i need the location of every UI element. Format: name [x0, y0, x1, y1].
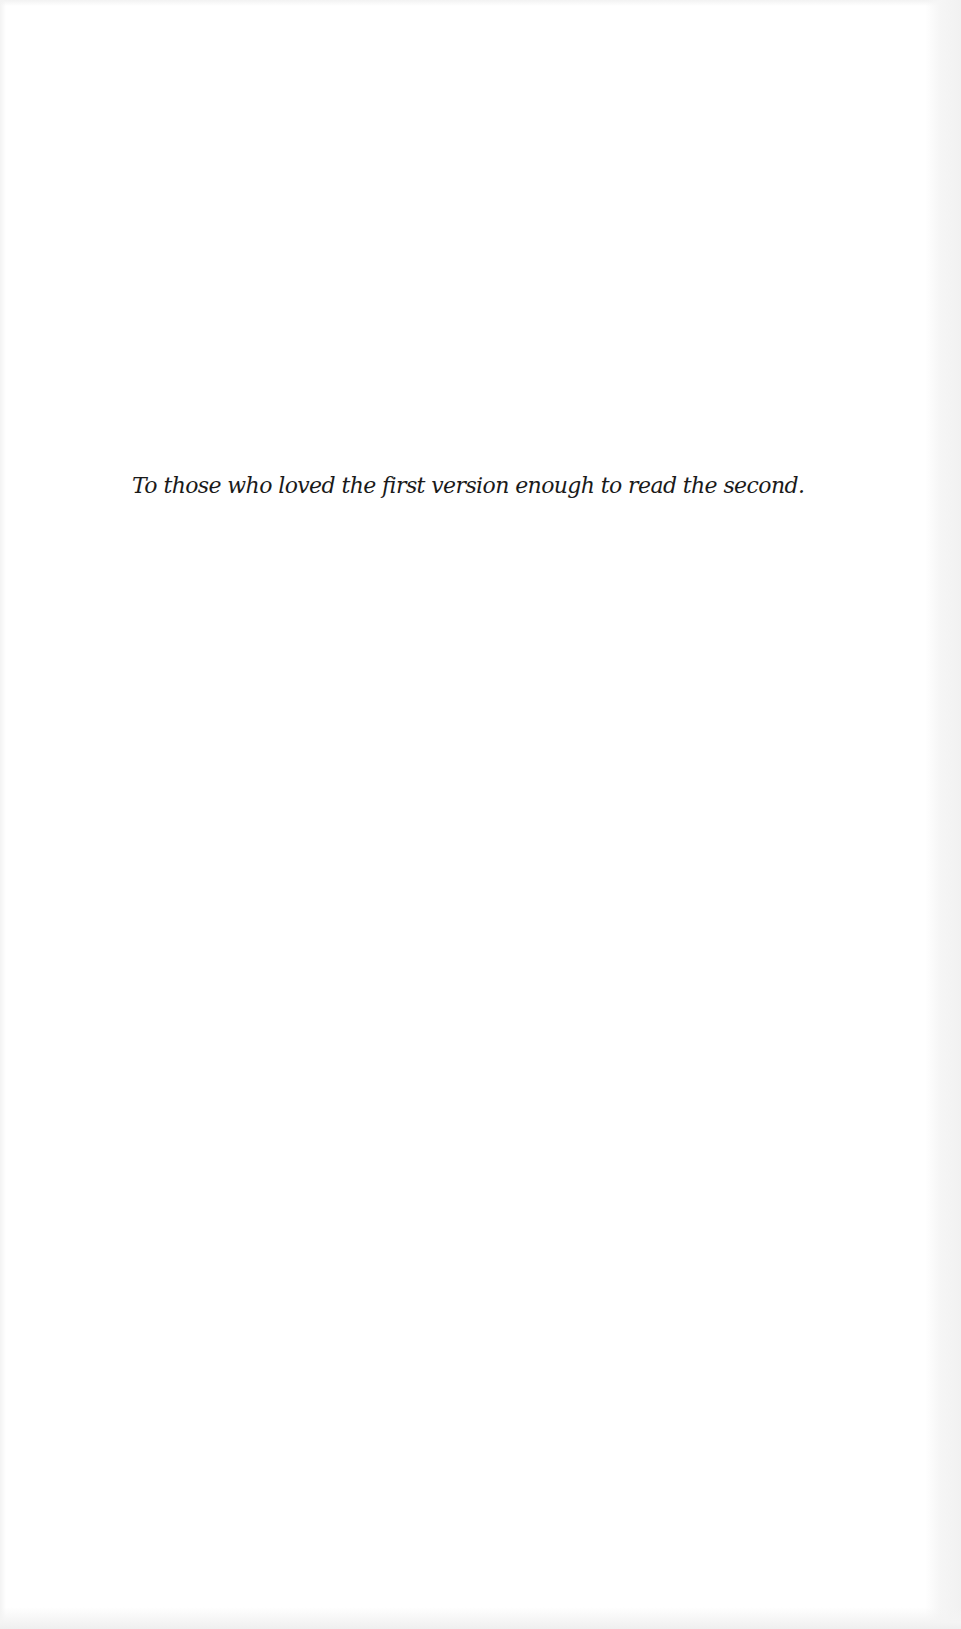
page-edge-shadow-left [0, 0, 6, 1629]
dedication-text: To those who loved the first version eno… [132, 471, 804, 501]
page-edge-shadow-top [0, 0, 961, 6]
book-page: To those who loved the first version eno… [0, 0, 961, 1629]
page-edge-shadow-right [925, 0, 961, 1629]
page-edge-shadow-bottom [0, 1607, 961, 1629]
